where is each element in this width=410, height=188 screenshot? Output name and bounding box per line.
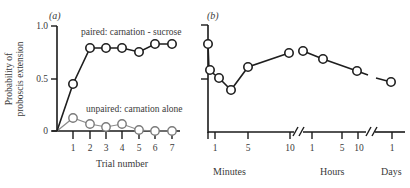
x-tick-label: 3 — [104, 143, 109, 153]
panel-a: (a) Probability of proboscis extension 1… — [4, 10, 183, 169]
x-tick-label: 1 — [310, 143, 315, 153]
x-axis-title: Trial number — [96, 158, 149, 169]
panel-b: (b) 1 5 10 1 5 10 — [201, 10, 405, 177]
axis-break-1 — [293, 127, 304, 136]
x-tick-label: 4 — [120, 143, 125, 153]
x-tick-label: 1 — [213, 143, 218, 153]
panel-b-label: (b) — [207, 10, 219, 22]
series-points-paired — [69, 40, 176, 88]
series-label-paired: paired: carnation - sucrose — [81, 27, 182, 37]
y-tick-label: 0.5 — [36, 74, 48, 84]
x-tick-label: 10 — [285, 143, 295, 153]
unit-label-days: Days — [381, 166, 402, 177]
x-tick-label: 5 — [340, 143, 345, 153]
series-points — [204, 40, 395, 94]
y-axis-title-line2: proboscis extension — [15, 41, 25, 116]
unit-label-hours: Hours — [320, 166, 345, 177]
x-tick-label: 7 — [170, 143, 175, 153]
unit-label-minutes: Minutes — [213, 166, 246, 177]
figure: (a) Probability of proboscis extension 1… — [0, 0, 410, 188]
x-tick-label: 5 — [246, 143, 251, 153]
y-axis-title-line1: Probability of — [4, 52, 14, 105]
x-tick-label: 6 — [153, 143, 158, 153]
y-tick-label: 0 — [43, 126, 48, 136]
x-tick-label: 5 — [137, 143, 142, 153]
x-tick-label: 1 — [390, 143, 395, 153]
y-tick-label: 1.0 — [36, 21, 48, 31]
series-label-unpaired: unpaired: carnation alone — [86, 104, 183, 114]
x-tick-label: 10 — [354, 143, 364, 153]
x-tick-label: 2 — [88, 143, 93, 153]
panel-a-label: (a) — [49, 10, 61, 22]
y-axis-title: Probability of proboscis extension — [4, 41, 25, 116]
x-tick-label: 1 — [71, 143, 76, 153]
